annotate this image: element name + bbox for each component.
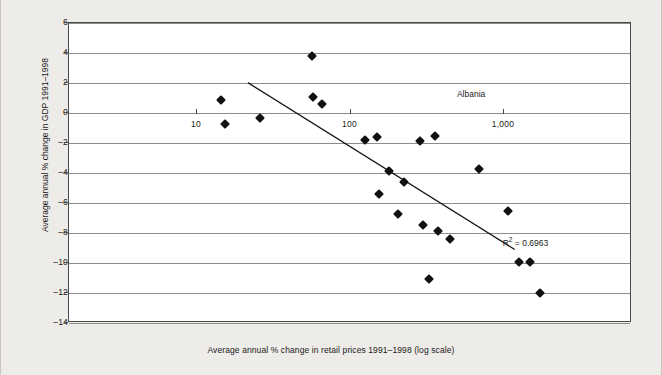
albania-label: Albania bbox=[457, 89, 485, 99]
trendline bbox=[69, 23, 630, 321]
y-axis-tick-mark bbox=[64, 322, 68, 323]
gridline bbox=[69, 323, 630, 324]
y-axis: 6420–2–4–6–8–10–12–14 bbox=[30, 22, 68, 322]
r-squared-label: R2 = 0.6963 bbox=[503, 236, 548, 248]
x-axis-title: Average annual % change in retail prices… bbox=[0, 345, 662, 355]
r-squared-value: = 0.6963 bbox=[512, 237, 548, 247]
figure-container: Average annual % change in GDP 1991–1998… bbox=[0, 0, 662, 375]
y-axis-title-container: Average annual % change in GDP 1991–1998 bbox=[16, 22, 30, 322]
plot-area: 101001,000 Albania R2 = 0.6963 bbox=[68, 22, 631, 322]
